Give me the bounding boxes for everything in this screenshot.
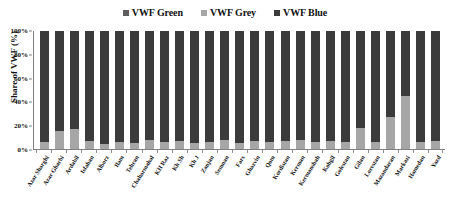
bar-segment-vwf-grey xyxy=(341,142,350,149)
y-axis-tick-label: 80% xyxy=(14,51,28,59)
x-axis-label-slot: Gilan xyxy=(353,153,368,203)
x-axis-tick-label: Yazd xyxy=(429,154,442,169)
bar-slot xyxy=(293,31,308,149)
bar-segment-vwf-blue xyxy=(145,31,154,140)
stacked-bar[interactable] xyxy=(220,31,229,149)
bar-segment-vwf-grey xyxy=(386,117,395,149)
bar-slot xyxy=(278,31,293,149)
y-axis-tick-mark xyxy=(29,102,32,103)
stacked-bar[interactable] xyxy=(386,31,395,149)
bar-slot xyxy=(97,31,112,149)
stacked-bar[interactable] xyxy=(356,31,365,149)
bar-slot xyxy=(172,31,187,149)
stacked-bar[interactable] xyxy=(311,31,320,149)
bar-segment-vwf-blue xyxy=(85,31,94,141)
x-axis-label-slot: Zanjan xyxy=(202,153,217,203)
bar-segment-vwf-grey xyxy=(220,140,229,149)
stacked-bar[interactable] xyxy=(55,31,64,149)
bar-slot xyxy=(413,31,428,149)
stacked-bar[interactable] xyxy=(175,31,184,149)
y-axis-tick-label: 20% xyxy=(14,122,28,130)
stacked-bar[interactable] xyxy=(205,31,214,149)
x-axis-label-slot: Semnan xyxy=(217,153,232,203)
stacked-bar[interactable] xyxy=(100,31,109,149)
stacked-bar[interactable] xyxy=(190,31,199,149)
chart-container: VWF Green VWF Grey VWF Blue Share of VWF… xyxy=(0,0,450,203)
bar-segment-vwf-grey xyxy=(416,142,425,149)
stacked-bar[interactable] xyxy=(296,31,305,149)
bar-segment-vwf-grey xyxy=(401,96,410,149)
x-axis-label-slot: Chaharmahal xyxy=(142,153,157,203)
bar-segment-vwf-blue xyxy=(416,31,425,142)
bar-segment-vwf-grey xyxy=(70,129,79,149)
stacked-bar[interactable] xyxy=(401,31,410,149)
stacked-bar[interactable] xyxy=(40,31,49,149)
bar-slot xyxy=(67,31,82,149)
legend-label-vwf-green: VWF Green xyxy=(132,8,183,18)
stacked-bar[interactable] xyxy=(160,31,169,149)
x-axis-tick-label: Ilam xyxy=(112,154,124,168)
bar-slot xyxy=(112,31,127,149)
bar-group xyxy=(34,31,445,149)
x-axis-label-slot: Kh Sh xyxy=(172,153,187,203)
bar-segment-vwf-grey xyxy=(190,143,199,149)
legend-swatch-grey xyxy=(201,10,207,16)
bar-slot xyxy=(338,31,353,149)
y-axis-tick-mark xyxy=(29,54,32,55)
stacked-bar[interactable] xyxy=(341,31,350,149)
y-axis-tick-mark xyxy=(29,150,32,151)
bar-segment-vwf-grey xyxy=(160,142,169,149)
bar-segment-vwf-blue xyxy=(431,31,440,141)
y-axis-tick-mark xyxy=(29,126,32,127)
bar-segment-vwf-blue xyxy=(235,31,244,143)
y-axis-tick-label: 40% xyxy=(14,98,28,106)
x-axis-label-slot: Fars xyxy=(232,153,247,203)
y-axis-tick-label: 60% xyxy=(14,75,28,83)
x-axis-label-slot: Ilam xyxy=(111,153,126,203)
bar-segment-vwf-blue xyxy=(296,31,305,140)
bar-slot xyxy=(398,31,413,149)
bar-segment-vwf-blue xyxy=(265,31,274,142)
stacked-bar[interactable] xyxy=(85,31,94,149)
stacked-bar[interactable] xyxy=(115,31,124,149)
legend-item-vwf-grey[interactable]: VWF Grey xyxy=(201,8,256,18)
stacked-bar[interactable] xyxy=(371,31,380,149)
bar-segment-vwf-grey xyxy=(431,141,440,149)
stacked-bar[interactable] xyxy=(265,31,274,149)
bar-segment-vwf-blue xyxy=(100,31,109,144)
stacked-bar[interactable] xyxy=(250,31,259,149)
y-axis-tick-mark xyxy=(29,78,32,79)
bar-segment-vwf-grey xyxy=(281,141,290,149)
x-axis-tick-label: Fars xyxy=(233,154,245,168)
x-axis-tick-label: Ardabil xyxy=(63,154,80,175)
bar-segment-vwf-blue xyxy=(250,31,259,141)
stacked-bar[interactable] xyxy=(145,31,154,149)
legend-item-vwf-blue[interactable]: VWF Blue xyxy=(274,8,327,18)
bar-slot xyxy=(323,31,338,149)
bar-segment-vwf-grey xyxy=(145,140,154,149)
bar-segment-vwf-blue xyxy=(220,31,229,140)
stacked-bar[interactable] xyxy=(416,31,425,149)
bar-slot xyxy=(262,31,277,149)
bar-segment-vwf-blue xyxy=(281,31,290,141)
bar-segment-vwf-grey xyxy=(175,141,184,149)
bar-slot xyxy=(37,31,52,149)
bar-segment-vwf-grey xyxy=(100,144,109,149)
stacked-bar[interactable] xyxy=(70,31,79,149)
stacked-bar[interactable] xyxy=(235,31,244,149)
x-axis-tick-label: Kh J xyxy=(187,154,200,169)
x-axis-tick-label: Alborz xyxy=(94,154,110,173)
legend-item-vwf-green[interactable]: VWF Green xyxy=(123,8,183,18)
bar-slot xyxy=(232,31,247,149)
bar-segment-vwf-grey xyxy=(115,142,124,149)
stacked-bar[interactable] xyxy=(326,31,335,149)
bar-slot xyxy=(383,31,398,149)
x-axis-tick-label: Qom xyxy=(263,154,276,169)
x-axis-label-slot: Alborz xyxy=(96,153,111,203)
x-axis-label-slot: KH Raz xyxy=(157,153,172,203)
stacked-bar[interactable] xyxy=(281,31,290,149)
x-axis-label-slot: Kermanshah xyxy=(307,153,322,203)
bar-segment-vwf-blue xyxy=(311,31,320,142)
stacked-bar[interactable] xyxy=(130,31,139,149)
stacked-bar[interactable] xyxy=(431,31,440,149)
